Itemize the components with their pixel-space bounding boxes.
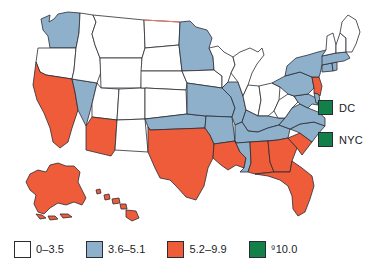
state-HI-4[interactable] <box>120 204 127 209</box>
legend-label-2: 5.2–9.9 <box>189 243 226 255</box>
state-CO[interactable] <box>117 88 145 120</box>
state-VT[interactable] <box>322 33 336 56</box>
legend-swatch-3-6-5-1-icon <box>86 241 103 258</box>
state-MN[interactable] <box>179 21 214 71</box>
state-RI[interactable] <box>332 62 337 71</box>
dc-swatch-icon <box>318 100 333 115</box>
state-AK[interactable] <box>26 163 86 214</box>
legend-item-2: 5.2–9.9 <box>167 241 226 258</box>
legend-label-1: 3.6–5.1 <box>108 243 145 255</box>
legend-swatch-0-3-5-icon <box>14 241 31 258</box>
state-WY[interactable] <box>100 58 142 88</box>
state-AZ[interactable] <box>86 117 117 156</box>
alaska-aleutian-1 <box>36 214 46 219</box>
alaska-aleutian-3 <box>60 214 72 218</box>
annotation-nyc: NYC <box>318 132 378 147</box>
state-ND[interactable] <box>144 20 180 48</box>
state-HI-3[interactable] <box>112 198 120 204</box>
legend: 0–3.5 3.6–5.1 5.2–9.9 ⁹10.0 <box>0 228 378 270</box>
legend-item-0: 0–3.5 <box>14 241 64 258</box>
state-HI-2[interactable] <box>104 194 110 200</box>
legend-item-1: 3.6–5.1 <box>86 241 145 258</box>
map-annotations: DC NYC <box>318 100 378 164</box>
legend-label-0: 0–3.5 <box>36 243 64 255</box>
nyc-swatch-icon <box>318 132 333 147</box>
state-NJ[interactable] <box>312 77 322 96</box>
state-WA[interactable] <box>41 12 80 48</box>
alaska-aleutian-2 <box>48 216 58 220</box>
state-SD[interactable] <box>141 45 182 71</box>
legend-swatch-5-2-9-9-icon <box>167 241 184 258</box>
state-TX[interactable] <box>148 127 214 200</box>
state-HI-1[interactable] <box>96 189 101 194</box>
state-UT[interactable] <box>92 83 119 120</box>
annotation-dc: DC <box>318 100 378 115</box>
legend-label-3: ⁹10.0 <box>271 243 298 255</box>
legend-item-3: ⁹10.0 <box>249 241 298 258</box>
state-NM[interactable] <box>115 119 148 152</box>
state-NE[interactable] <box>141 71 187 90</box>
state-HI-5[interactable] <box>126 210 139 221</box>
annotation-dc-label: DC <box>339 102 355 114</box>
annotation-nyc-label: NYC <box>339 134 363 146</box>
state-MT[interactable] <box>92 15 145 58</box>
legend-swatch-10-0-icon <box>249 241 266 258</box>
choropleth-figure: DC NYC 0–3.5 3.6–5.1 5.2–9.9 ⁹10.0 <box>0 0 378 270</box>
